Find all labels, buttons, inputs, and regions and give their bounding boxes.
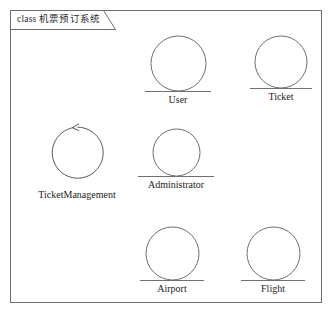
class-node-flight[interactable]: Flight — [241, 226, 305, 295]
node-shape-wrap — [250, 35, 312, 89]
diagram-canvas: class 机票预订系统 User Ticket — [0, 0, 334, 318]
class-node-label: Airport — [140, 282, 204, 295]
node-shape-wrap — [27, 122, 127, 184]
class-node-label: TicketManagement — [27, 188, 127, 201]
class-node-label: User — [145, 93, 211, 106]
class-node-user[interactable]: User — [145, 35, 211, 106]
circle-icon — [152, 128, 201, 177]
node-shape-wrap — [145, 35, 211, 92]
circle-icon — [150, 35, 207, 92]
circular-arrow-icon — [47, 122, 107, 184]
class-node-label: Administrator — [138, 178, 214, 191]
class-node-airport[interactable]: Airport — [140, 226, 204, 295]
node-shape-wrap — [140, 226, 204, 281]
circle-icon — [145, 226, 200, 281]
class-node-ticket[interactable]: Ticket — [250, 35, 312, 103]
class-node-label: Flight — [241, 282, 305, 295]
class-node-administrator[interactable]: Administrator — [138, 128, 214, 191]
package-tab-label: class 机票预订系统 — [17, 13, 100, 26]
node-shape-wrap — [241, 226, 305, 281]
node-shape-wrap — [138, 128, 214, 177]
class-node-label: Ticket — [250, 90, 312, 103]
package-tab[interactable]: class 机票预订系统 — [10, 10, 116, 30]
class-node-ticketmanagement[interactable]: TicketManagement — [27, 122, 127, 201]
circle-icon — [254, 35, 308, 89]
circle-icon — [246, 226, 301, 281]
